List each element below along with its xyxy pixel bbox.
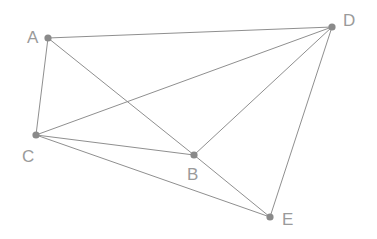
graph-edge-A-D	[48, 27, 332, 38]
graph-node-label-D: D	[343, 12, 355, 29]
graph-node-D[interactable]	[328, 23, 335, 30]
graph-node-B[interactable]	[190, 151, 197, 158]
graph-edge-A-B	[48, 38, 194, 155]
graph-edge-C-E	[36, 135, 270, 217]
graph-node-A[interactable]	[44, 34, 51, 41]
graph-node-label-C: C	[22, 148, 34, 165]
graph-node-label-A: A	[27, 29, 38, 46]
node-layer	[32, 23, 335, 220]
graph-node-label-B: B	[187, 166, 198, 183]
graph-node-label-E: E	[282, 211, 293, 228]
edge-layer	[36, 27, 332, 217]
graph-node-E[interactable]	[266, 213, 273, 220]
graph-canvas: ABCDE	[0, 0, 377, 239]
graph-svg	[0, 0, 377, 239]
graph-edge-C-D	[36, 27, 332, 135]
graph-edge-C-B	[36, 135, 194, 155]
graph-edge-B-E	[194, 155, 270, 217]
graph-edge-A-C	[36, 38, 48, 135]
graph-node-C[interactable]	[32, 131, 39, 138]
